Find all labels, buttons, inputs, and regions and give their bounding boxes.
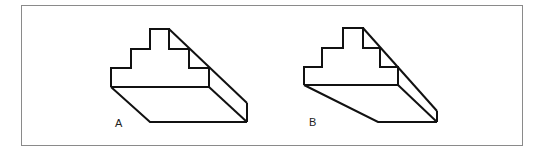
panel-label-a: A <box>115 117 122 129</box>
diagram-canvas <box>0 0 544 156</box>
figure-a-edge <box>209 87 247 122</box>
figure-a-diagonal <box>169 29 247 103</box>
panel-label-b: B <box>309 116 316 128</box>
figure-b <box>304 28 437 122</box>
figure-b-diagonal <box>363 28 437 111</box>
figure-a <box>111 29 247 122</box>
figure-b-steps <box>304 28 398 85</box>
figure-a-steps <box>111 29 209 87</box>
